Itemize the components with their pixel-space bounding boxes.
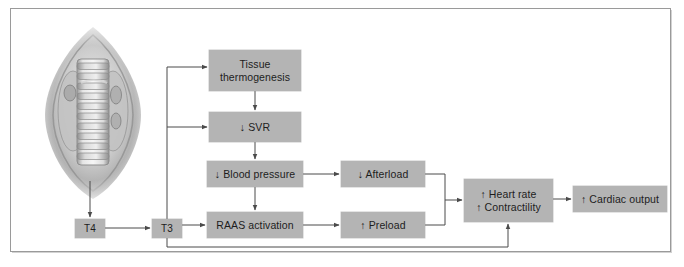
node-tissue-thermogenesis: Tissue thermogenesis — [209, 50, 301, 91]
figure-frame: Tissue thermogenesis ↓ SVR ↓ Blood press… — [10, 8, 671, 252]
node-heart-rate-contractility: ↑ Heart rate ↑ Contractility — [464, 179, 553, 222]
thyroid-gland-trachea-illustration — [37, 23, 149, 203]
node-tissue-thermogenesis-label: Tissue thermogenesis — [220, 58, 290, 84]
node-blood-pressure-label: ↓ Blood pressure — [215, 168, 295, 181]
node-afterload: ↓ Afterload — [341, 161, 425, 187]
node-preload-label: ↑ Preload — [360, 219, 405, 232]
edge-bracket-afterload-preload — [425, 174, 445, 225]
node-cardiac-output: ↑ Cardiac output — [573, 186, 667, 212]
node-raas-activation: RAAS activation — [207, 212, 303, 238]
node-t4-label: T4 — [84, 222, 96, 235]
node-afterload-label: ↓ Afterload — [358, 168, 409, 181]
node-t3-label: T3 — [161, 222, 173, 235]
node-blood-pressure: ↓ Blood pressure — [207, 161, 303, 187]
node-svr-label: ↓ SVR — [240, 121, 270, 134]
node-cardiac-output-label: ↑ Cardiac output — [581, 193, 659, 206]
node-t3: T3 — [152, 219, 182, 238]
node-t4: T4 — [75, 219, 105, 238]
node-preload: ↑ Preload — [341, 212, 425, 238]
figure-root: Tissue thermogenesis ↓ SVR ↓ Blood press… — [0, 0, 684, 267]
node-raas-activation-label: RAAS activation — [216, 219, 293, 232]
node-heart-rate-contractility-label: ↑ Heart rate ↑ Contractility — [476, 188, 541, 214]
node-svr: ↓ SVR — [209, 112, 301, 142]
